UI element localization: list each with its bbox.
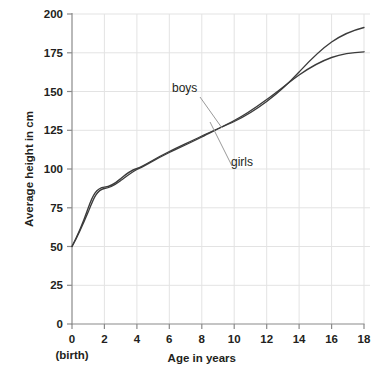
x-tick-label-2: 2 <box>101 333 107 345</box>
x-tick-label-14: 14 <box>293 333 306 345</box>
x-tick-labels: 0 2 4 6 8 10 12 14 16 18 <box>69 333 371 345</box>
x-tick-label-4: 4 <box>134 333 141 345</box>
y-gridlines <box>72 14 370 285</box>
y-tick-label-175: 175 <box>44 47 64 59</box>
x-axis-title: Age in years <box>168 352 236 364</box>
y-tick-labels: 200 175 150 125 100 75 50 25 0 <box>44 8 64 330</box>
y-tickmarks <box>67 14 72 324</box>
x-origin-note: (birth) <box>55 349 88 361</box>
x-tick-label-16: 16 <box>325 333 338 345</box>
y-tick-label-75: 75 <box>50 202 63 214</box>
x-tick-label-18: 18 <box>358 333 371 345</box>
series-label-boys: boys <box>172 81 197 95</box>
y-tick-label-0: 0 <box>57 318 63 330</box>
x-tick-label-6: 6 <box>166 333 172 345</box>
x-tickmarks <box>72 324 364 329</box>
y-axis-title: Average height in cm <box>23 111 35 227</box>
y-tick-label-150: 150 <box>44 86 63 98</box>
y-tick-label-100: 100 <box>44 163 63 175</box>
growth-chart: 200 175 150 125 100 75 50 25 0 0 2 4 6 8… <box>0 0 381 373</box>
y-tick-label-25: 25 <box>50 279 63 291</box>
x-tick-label-0: 0 <box>69 333 75 345</box>
series-label-girls: girls <box>231 155 253 169</box>
y-tick-label-125: 125 <box>44 124 64 136</box>
leader-line-girls <box>210 122 232 166</box>
chart-svg: 200 175 150 125 100 75 50 25 0 0 2 4 6 8… <box>0 0 381 373</box>
x-tick-label-8: 8 <box>199 333 206 345</box>
series-line-girls <box>72 52 364 247</box>
y-tick-label-200: 200 <box>44 8 63 20</box>
x-tick-label-12: 12 <box>260 333 273 345</box>
y-tick-label-50: 50 <box>50 241 63 253</box>
x-tick-label-10: 10 <box>228 333 241 345</box>
